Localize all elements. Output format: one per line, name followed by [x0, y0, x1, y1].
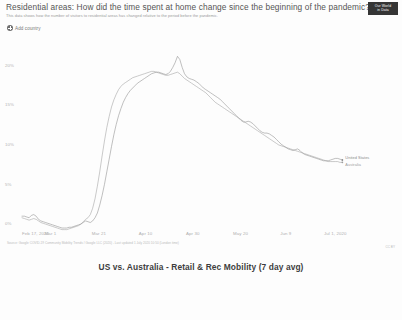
add-country-button[interactable]: Add country [7, 25, 41, 31]
owid-logo[interactable]: Our World in Data [368, 2, 398, 15]
plot-area[interactable]: 20%15%10%5%0% United StatesAustralia [0, 40, 402, 240]
series-lines [22, 56, 343, 229]
plus-circle-icon [7, 25, 13, 31]
chart-caption: US vs. Australia - Retail & Rec Mobility… [0, 262, 402, 272]
y-axis-tick-label: 10% [5, 142, 14, 147]
series-label-united-states[interactable]: United States [345, 156, 369, 161]
x-axis-tick-label: Jun 9 [280, 231, 291, 236]
chart-page: Residential areas: How did the time spen… [0, 0, 402, 320]
add-country-label: Add country [15, 26, 41, 31]
owid-logo-line2: in Data [368, 8, 398, 12]
y-axis-tick-label: 20% [5, 63, 14, 68]
series-label-australia[interactable]: Australia [345, 163, 361, 168]
series-line [22, 56, 342, 228]
chart-header: Residential areas: How did the time spen… [6, 2, 396, 18]
chart-subtitle: This data shows how the number of visito… [6, 13, 396, 18]
series-line [22, 71, 342, 229]
series-end-marker [341, 161, 343, 163]
series-end-marker [341, 159, 343, 161]
x-axis-tick-label: Mar 1 [45, 231, 57, 236]
x-axis-tick-label: Jul 1, 2020 [324, 231, 347, 236]
chart-footer: Source: Google COVID-19 Community Mobili… [0, 241, 402, 253]
x-axis-tick-label: May 20 [233, 231, 248, 236]
chart-canvas [0, 40, 402, 240]
page-title: Residential areas: How did the time spen… [6, 2, 396, 12]
x-axis-tick-label: Apr 10 [139, 231, 153, 236]
x-axis-tick-label: Mar 21 [92, 231, 106, 236]
x-axis-tick-label: Apr 30 [186, 231, 200, 236]
footer-license-link[interactable]: CC BY [386, 245, 395, 249]
footer-source-text: Source: Google COVID-19 Community Mobili… [7, 241, 179, 245]
y-axis-tick-label: 5% [5, 182, 12, 187]
y-axis-tick-label: 0% [5, 221, 12, 226]
y-axis-tick-label: 15% [5, 102, 14, 107]
x-axis-labels: Feb 17, 2020Mar 1Mar 21Apr 10Apr 30May 2… [0, 231, 402, 241]
